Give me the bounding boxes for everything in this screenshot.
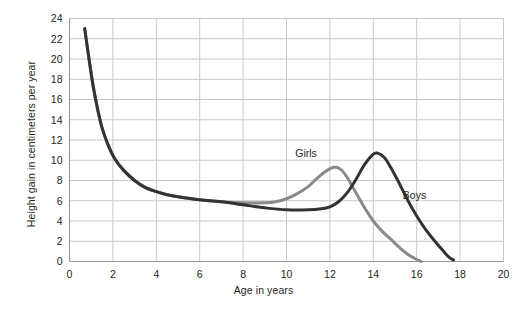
- y-tick-label: 18: [51, 73, 63, 85]
- x-tick-label: 14: [367, 268, 379, 280]
- series-curve-boys: [85, 29, 454, 260]
- x-tick-label: 8: [240, 268, 246, 280]
- x-tick-label: 12: [324, 268, 336, 280]
- x-tick-label: 18: [454, 268, 466, 280]
- y-tick-label: 6: [57, 195, 63, 207]
- y-tick-label: 16: [51, 93, 63, 105]
- y-tick-label: 14: [51, 114, 63, 126]
- x-tick-label: 6: [197, 268, 203, 280]
- x-axis-title: Age in years: [0, 284, 527, 296]
- x-tick-labels: 02468101214161820: [67, 268, 510, 280]
- series-label-boys: Boys: [403, 189, 426, 201]
- y-tick-label: 22: [51, 33, 63, 45]
- y-tick-label: 2: [57, 235, 63, 247]
- y-tick-labels: 024681012141618202224: [51, 12, 63, 267]
- series-curves: [85, 29, 454, 262]
- y-tick-label: 12: [51, 134, 63, 146]
- y-tick-label: 8: [57, 174, 63, 186]
- y-tick-label: 24: [51, 12, 63, 24]
- chart-canvas: 024681012141618202224 02468101214161820 …: [0, 0, 527, 311]
- growth-velocity-chart: Height gain in centimeters per year 0246…: [0, 0, 527, 311]
- gridlines: [70, 19, 504, 262]
- y-tick-label: 20: [51, 53, 63, 65]
- y-tick-label: 10: [51, 154, 63, 166]
- y-tick-label: 4: [57, 215, 63, 227]
- x-tick-label: 20: [498, 268, 510, 280]
- x-tick-label: 4: [153, 268, 159, 280]
- series-curve-girls: [85, 29, 421, 262]
- x-tick-label: 2: [110, 268, 116, 280]
- series-label-girls: Girls: [295, 147, 317, 159]
- x-tick-label: 10: [281, 268, 293, 280]
- x-tick-label: 16: [411, 268, 423, 280]
- x-tick-label: 0: [67, 268, 73, 280]
- y-tick-label: 0: [57, 255, 63, 267]
